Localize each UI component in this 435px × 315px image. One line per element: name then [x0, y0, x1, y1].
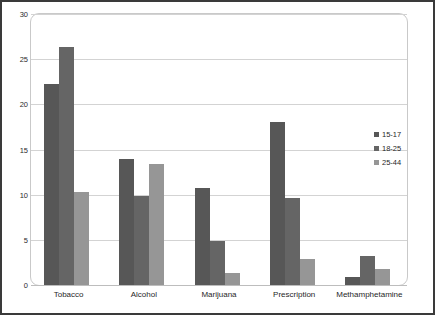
bar-group [119, 14, 164, 285]
y-axis: 051015202530 [2, 14, 28, 285]
bar-group [44, 14, 89, 285]
bar [59, 47, 74, 285]
bar [44, 84, 59, 285]
y-tick-label: 0 [4, 281, 28, 290]
legend-swatch-icon [374, 160, 379, 165]
x-tick-label: Tobacco [54, 290, 84, 299]
legend-label: 15-17 [382, 130, 401, 139]
x-tick-label: Alcohol [131, 290, 157, 299]
bar [375, 269, 390, 285]
bar [300, 259, 315, 285]
chart-legend: 15-1718-2525-44 [374, 128, 432, 170]
x-tick-label: Prescription [273, 290, 315, 299]
y-tick-label: 20 [4, 100, 28, 109]
gridline-0 [31, 285, 407, 286]
bar [270, 122, 285, 286]
bar [195, 188, 210, 285]
bar [225, 273, 240, 285]
bar-group [270, 14, 315, 285]
bar-group [195, 14, 240, 285]
bar [210, 241, 225, 285]
y-tick-label: 10 [4, 190, 28, 199]
y-tick-label: 30 [4, 10, 28, 19]
bar [149, 164, 164, 285]
x-axis-labels: TobaccoAlcoholMarijuanaPrescriptionMetha… [31, 290, 407, 312]
bar [345, 277, 360, 285]
legend-swatch-icon [374, 146, 379, 151]
legend-label: 18-25 [382, 144, 401, 153]
x-tick-label: Marijuana [201, 290, 236, 299]
legend-item: 18-25 [374, 142, 432, 155]
y-tick-label: 25 [4, 55, 28, 64]
bar [74, 192, 89, 285]
x-tick-label: Methamphetamine [336, 290, 402, 299]
bar [360, 256, 375, 285]
chart-figure: 051015202530 TobaccoAlcoholMarijuanaPres… [0, 0, 435, 315]
legend-item: 15-17 [374, 128, 432, 141]
y-tick-label: 15 [4, 145, 28, 154]
bar [285, 198, 300, 285]
plot-area [31, 14, 407, 285]
bar [119, 159, 134, 285]
legend-item: 25-44 [374, 156, 432, 169]
bar [134, 196, 149, 285]
legend-label: 25-44 [382, 158, 401, 167]
y-tick-label: 5 [4, 235, 28, 244]
legend-swatch-icon [374, 132, 379, 137]
